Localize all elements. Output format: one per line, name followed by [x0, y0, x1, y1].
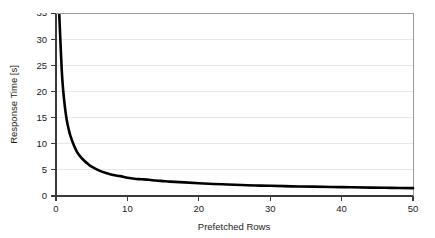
- x-tick-label-50: 50: [408, 203, 419, 214]
- top-mask: [0, 0, 435, 13]
- y-axis-title: Response Time [s]: [8, 65, 19, 144]
- y-tick-label-10: 10: [36, 138, 47, 149]
- y-tick-label-0: 0: [42, 190, 47, 201]
- x-tick-label-20: 20: [194, 203, 205, 214]
- y-tick-label-30: 30: [36, 34, 47, 45]
- y-axis-ticks: [51, 13, 56, 196]
- y-axis-tick-labels: 0 5 10 15 20 25 30 35: [36, 7, 47, 201]
- y-tick-label-15: 15: [36, 112, 47, 123]
- x-tick-label-0: 0: [53, 203, 58, 214]
- x-axis-tick-labels: 0 10 20 30 40 50: [53, 203, 418, 214]
- x-axis-ticks: [56, 196, 413, 201]
- x-axis-title: Prefetched Rows: [198, 221, 271, 232]
- y-tick-label-25: 25: [36, 60, 47, 71]
- x-tick-label-10: 10: [122, 203, 133, 214]
- y-tick-label-20: 20: [36, 86, 47, 97]
- response-time-line-chart: 0 5 10 15 20 25 30 35 0 10 20 30 40 50 P…: [0, 0, 435, 238]
- x-tick-label-30: 30: [265, 203, 276, 214]
- x-tick-label-40: 40: [336, 203, 347, 214]
- chart-figure: 0 5 10 15 20 25 30 35 0 10 20 30 40 50 P…: [0, 0, 435, 238]
- y-tick-label-5: 5: [42, 164, 47, 175]
- plot-background: [56, 13, 413, 196]
